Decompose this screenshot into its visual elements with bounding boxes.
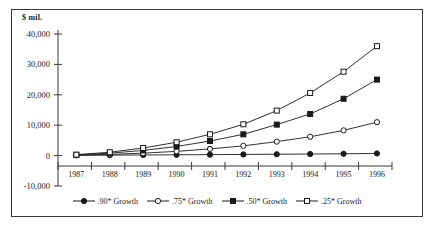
legend-item[interactable]: .75* Growth [147, 196, 212, 206]
series-marker [274, 108, 279, 113]
y-axis-tick-label: 20,000 [0, 90, 50, 100]
series-line [76, 46, 377, 155]
x-axis-tick-label: 1996 [357, 170, 397, 179]
series-marker [374, 120, 379, 125]
series-marker [174, 140, 179, 145]
series-line [76, 80, 377, 155]
chart-figure: $ mil. -10,000010,00020,00030,00040,000 … [0, 0, 434, 228]
legend-item[interactable]: .90* Growth [73, 196, 138, 206]
series-marker [241, 143, 246, 148]
series-marker [141, 146, 146, 151]
legend-item-label: .50* Growth [247, 197, 287, 206]
legend-item[interactable]: .25* Growth [296, 196, 361, 206]
series-marker [241, 122, 246, 127]
legend-item-label: .90* Growth [98, 197, 138, 206]
series-marker [374, 44, 379, 49]
series-marker [207, 152, 212, 157]
y-axis-tick-label: 0 [0, 151, 50, 161]
series-marker [241, 132, 246, 137]
series-marker [207, 132, 212, 137]
series-marker [308, 151, 313, 156]
series-marker [341, 69, 346, 74]
legend-marker-icon [147, 196, 169, 206]
series-marker [374, 151, 379, 156]
chart-series-group [74, 44, 380, 158]
series-marker [308, 134, 313, 139]
series-marker [274, 122, 279, 127]
legend-marker-icon [222, 196, 244, 206]
series-marker [308, 111, 313, 116]
legend-marker-icon [296, 196, 318, 206]
chart-plot-area [0, 0, 434, 228]
series-marker [174, 149, 179, 154]
chart-series [74, 77, 380, 157]
series-marker [274, 152, 279, 157]
legend-item-label: .75* Growth [172, 197, 212, 206]
series-marker [207, 146, 212, 151]
series-marker [241, 152, 246, 157]
legend-item[interactable]: .50* Growth [222, 196, 287, 206]
legend-marker-icon [73, 196, 95, 206]
series-marker [341, 128, 346, 133]
series-marker [207, 139, 212, 144]
chart-series [74, 44, 380, 158]
y-axis-tick-label: -10,000 [0, 181, 50, 191]
series-marker [308, 90, 313, 95]
series-marker [107, 150, 112, 155]
y-axis-tick-label: 10,000 [0, 120, 50, 130]
series-marker [374, 77, 379, 82]
chart-legend: .90* Growth.75* Growth.50* Growth.25* Gr… [0, 196, 434, 206]
legend-item-label: .25* Growth [321, 197, 361, 206]
series-marker [341, 151, 346, 156]
series-marker [74, 152, 79, 157]
series-marker [274, 139, 279, 144]
y-axis-tick-label: 30,000 [0, 59, 50, 69]
series-marker [341, 96, 346, 101]
series-line [76, 122, 377, 155]
y-axis-tick-label: 40,000 [0, 29, 50, 39]
